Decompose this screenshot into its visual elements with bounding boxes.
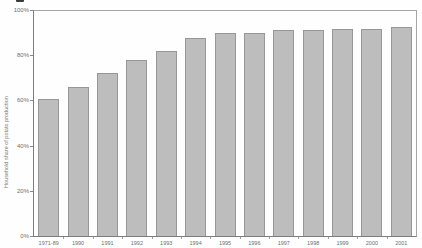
- x-tick-label-1998: 1998: [307, 240, 319, 246]
- y-tick-mark-40: [30, 146, 33, 147]
- x-tick-label-1991: 1991: [101, 240, 113, 246]
- bar-1996: [244, 33, 265, 236]
- x-tick-label-1995: 1995: [219, 240, 231, 246]
- x-tick-label-1997: 1997: [278, 240, 290, 246]
- scanned-bar-chart-page: Household share of potato production 0%2…: [0, 0, 422, 248]
- y-tick-mark-80: [30, 55, 33, 56]
- x-tick-label-1993: 1993: [160, 240, 172, 246]
- x-tick-mark-5: [181, 237, 182, 239]
- x-tick-mark-2: [93, 237, 94, 239]
- bar-1997: [273, 30, 294, 236]
- y-tick-label-80: 80%: [3, 52, 29, 58]
- y-tick-mark-100: [30, 10, 33, 11]
- bar-1991: [97, 73, 118, 236]
- y-tick-mark-60: [30, 100, 33, 101]
- y-tick-label-60: 60%: [3, 97, 29, 103]
- bar-1993: [156, 51, 177, 236]
- x-tick-mark-9: [298, 237, 299, 239]
- x-tick-label-1992: 1992: [131, 240, 143, 246]
- bar-2001: [391, 27, 412, 236]
- y-tick-label-40: 40%: [3, 143, 29, 149]
- y-tick-mark-0: [30, 236, 33, 237]
- x-tick-label-1994: 1994: [189, 240, 201, 246]
- x-tick-mark-4: [152, 237, 153, 239]
- x-tick-label-1999: 1999: [336, 240, 348, 246]
- bar-1999: [332, 29, 353, 236]
- bar-2000: [361, 29, 382, 236]
- bar-1998: [303, 30, 324, 236]
- y-tick-label-100: 100%: [3, 7, 29, 13]
- bar-1994: [185, 38, 206, 236]
- x-tick-mark-11: [357, 237, 358, 239]
- x-tick-mark-10: [328, 237, 329, 239]
- x-tick-mark-6: [210, 237, 211, 239]
- x-tick-label-1996: 1996: [248, 240, 260, 246]
- x-tick-label-1971-89: 1971-89: [39, 240, 59, 246]
- y-tick-label-0: 0%: [3, 233, 29, 239]
- bar-1990: [68, 87, 89, 236]
- x-tick-label-2001: 2001: [395, 240, 407, 246]
- x-tick-label-1990: 1990: [72, 240, 84, 246]
- x-tick-mark-12: [387, 237, 388, 239]
- y-tick-mark-20: [30, 191, 33, 192]
- y-tick-label-20: 20%: [3, 188, 29, 194]
- x-tick-mark-7: [240, 237, 241, 239]
- x-tick-mark-1: [63, 237, 64, 239]
- x-tick-mark-3: [122, 237, 123, 239]
- bar-1992: [126, 60, 147, 236]
- cropped-print-artifact: [16, 0, 24, 2]
- bar-1971-89: [38, 99, 59, 236]
- x-tick-label-2000: 2000: [366, 240, 378, 246]
- bar-1995: [215, 33, 236, 236]
- x-tick-mark-8: [269, 237, 270, 239]
- plot-area: [33, 10, 417, 237]
